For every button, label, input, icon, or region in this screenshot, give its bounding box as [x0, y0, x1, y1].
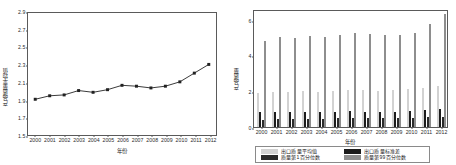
left-chart-x-tick-mark	[49, 135, 50, 137]
line-data-point	[106, 88, 109, 91]
right-chart-x-tick-label: 2003	[301, 130, 313, 135]
right-chart-x-tick-mark	[441, 127, 442, 129]
left-chart-x-tick-label: 2011	[190, 138, 201, 143]
line-data-point	[164, 85, 167, 88]
line-data-point	[34, 98, 37, 101]
bar-group	[377, 11, 386, 127]
left-chart-y-axis-title: 产品质量平均值	[3, 44, 8, 106]
left-chart-x-tick-label: 2005	[103, 138, 115, 143]
bar-4	[294, 38, 296, 127]
left-chart-x-tick-label: 2000	[29, 138, 41, 143]
line-data-point	[207, 63, 210, 66]
left-chart-x-tick-mark	[64, 135, 65, 137]
bar-4	[324, 37, 326, 127]
left-chart-x-tick-label: 2004	[88, 138, 100, 143]
left-chart-x-tick-label: 2003	[73, 138, 85, 143]
right-chart-x-tick-label: 2001	[271, 130, 283, 135]
bar-4	[414, 33, 416, 127]
left-chart-x-tick-mark	[79, 135, 80, 137]
right-chart-x-tick-mark	[276, 127, 277, 129]
bar-group	[272, 11, 281, 127]
right-chart-x-tick-label: 2005	[331, 130, 343, 135]
right-chart-x-tick-mark	[291, 127, 292, 129]
left-chart-y-tick-mark	[26, 137, 28, 138]
line-data-point	[178, 80, 181, 83]
left-chart-y-tick-mark	[26, 83, 28, 84]
right-chart-y-tick-mark	[252, 57, 254, 58]
bar-group	[287, 11, 296, 127]
left-chart-x-tick-label: 2008	[146, 138, 158, 143]
bar-4	[384, 35, 386, 127]
right-chart-x-tick-mark	[411, 127, 412, 129]
left-chart-x-tick-mark	[181, 135, 182, 137]
left-chart-x-tick-label: 2010	[176, 138, 188, 143]
right-chart-x-tick-label: 2004	[316, 130, 328, 135]
bar-group	[362, 11, 371, 127]
line-data-point	[92, 91, 95, 94]
right-chart-x-axis-title: 年份	[253, 140, 448, 145]
left-chart-x-tick-mark	[166, 135, 167, 137]
right-chart-x-tick-label: 2006	[346, 130, 358, 135]
left-chart-panel: 产品质量平均值 1.51.71.92.12.32.52.72.920002001…	[0, 0, 228, 165]
right-chart-x-tick-label: 2007	[361, 130, 373, 135]
bar-4	[354, 33, 356, 127]
right-chart-x-tick-mark	[396, 127, 397, 129]
right-chart-x-tick-label: 2009	[391, 130, 403, 135]
right-chart-y-tick-mark	[252, 93, 254, 94]
left-chart-x-tick-mark	[137, 135, 138, 137]
legend-label-1: 出口质量平均值	[281, 149, 317, 154]
bar-4	[444, 14, 446, 127]
right-chart-x-tick-label: 2012	[436, 130, 448, 135]
right-chart-panel: 产品质量 02462000200120022003200420052006200…	[228, 0, 456, 165]
right-chart-x-tick-mark	[336, 127, 337, 129]
line-data-point	[135, 85, 138, 88]
left-chart-x-tick-mark	[152, 135, 153, 137]
bar-group	[437, 11, 446, 127]
line-data-point	[63, 93, 66, 96]
bar-group	[257, 11, 266, 127]
legend-swatch-3	[261, 155, 278, 160]
legend-swatch-4	[344, 155, 361, 160]
legend-swatch-1	[261, 149, 278, 154]
figure-root: 产品质量平均值 1.51.71.92.12.32.52.72.920002001…	[0, 0, 456, 165]
bar-group	[317, 11, 326, 127]
left-chart-x-tick-label: 2001	[44, 138, 56, 143]
left-chart-y-tick-mark	[26, 66, 28, 67]
right-chart-x-tick-mark	[321, 127, 322, 129]
left-chart-y-tick-mark	[26, 13, 28, 14]
bar-4	[309, 36, 311, 127]
right-chart-x-tick-label: 2011	[421, 130, 432, 135]
chart-legend: 出口质量平均值出口质量标准差质量第1百分位数质量第99百分位数	[255, 146, 430, 163]
left-chart-x-tick-mark	[210, 135, 211, 137]
line-data-point	[121, 84, 124, 87]
bar-group	[392, 11, 401, 127]
left-chart-x-tick-label: 2006	[117, 138, 129, 143]
left-chart-x-tick-label: 2009	[161, 138, 173, 143]
line-series-export-quality-average	[28, 13, 216, 135]
left-chart-x-tick-label: 2007	[132, 138, 144, 143]
bar-group	[347, 11, 356, 127]
legend-swatch-2	[344, 149, 361, 154]
line-path	[35, 64, 209, 99]
line-data-point	[193, 72, 196, 75]
left-chart-y-tick-mark	[26, 30, 28, 31]
left-chart-y-tick-mark	[26, 101, 28, 102]
left-chart-x-tick-mark	[108, 135, 109, 137]
left-chart-y-tick-mark	[26, 48, 28, 49]
left-chart-x-tick-mark	[196, 135, 197, 137]
legend-item-1: 出口质量平均值	[261, 149, 338, 154]
left-chart-y-tick-mark	[26, 119, 28, 120]
legend-label-2: 出口质量标准差	[364, 149, 400, 154]
right-chart-y-tick-mark	[252, 129, 254, 130]
left-chart-plot-area: 1.51.71.92.12.32.52.72.92000200120022003…	[27, 12, 217, 136]
legend-item-3: 质量第1百分位数	[261, 155, 338, 160]
right-chart-x-tick-mark	[351, 127, 352, 129]
right-chart-x-tick-mark	[306, 127, 307, 129]
right-chart-x-tick-mark	[381, 127, 382, 129]
left-chart-x-axis-title: 年份	[27, 149, 217, 154]
right-chart-x-tick-label: 2010	[406, 130, 418, 135]
right-chart-plot-area: 0246200020012002200320042005200620072008…	[253, 10, 448, 128]
right-chart-y-axis-title: 产品质量	[234, 50, 239, 90]
legend-item-4: 质量第99百分位数	[344, 155, 424, 160]
bar-4	[279, 37, 281, 127]
